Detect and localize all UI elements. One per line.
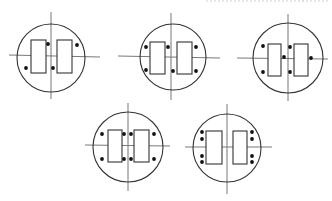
cut-off-text-fragment (302, 0, 330, 2)
pin-dot (282, 55, 286, 59)
pin-dot (144, 45, 148, 49)
pin-dot (24, 66, 28, 70)
pin-dot (100, 132, 104, 136)
diagram-3 (237, 14, 328, 101)
pin-dot (200, 160, 204, 164)
horizontal-axis-line (85, 145, 170, 146)
pin-dot (75, 43, 79, 47)
pin-dot (200, 154, 204, 158)
pin-dot (261, 70, 265, 74)
pin-dot (51, 66, 55, 70)
diagram-5 (185, 104, 272, 194)
horizontal-axis-line (9, 55, 100, 57)
horizontal-axis-line (118, 56, 220, 58)
pin-dot (100, 157, 104, 161)
pin-dot (122, 132, 126, 136)
pin-dot (200, 130, 204, 134)
pin-dot (250, 137, 254, 141)
pin-dot (194, 69, 198, 73)
pin-dot (200, 137, 204, 141)
pin-dot (288, 70, 292, 74)
component-rect-1 (206, 131, 222, 164)
pin-dot (129, 132, 133, 136)
component-rect-1 (108, 130, 122, 162)
component-rect-2 (134, 130, 149, 162)
component-rect-2 (294, 44, 308, 76)
pin-dot (288, 45, 292, 49)
pin-dot (152, 157, 156, 161)
pin-dot (166, 45, 170, 49)
component-rect-2 (233, 131, 247, 164)
pin-dot (144, 68, 148, 72)
component-rect-2 (57, 40, 72, 73)
pin-dot (309, 56, 313, 60)
pin-dot (250, 130, 254, 134)
diagram-canvas (0, 0, 332, 201)
pin-dot (250, 160, 254, 164)
component-rect-2 (177, 42, 192, 74)
component-rect-1 (268, 44, 281, 76)
diagram-1 (9, 12, 100, 99)
diagram-4 (85, 103, 170, 191)
pin-dot (194, 45, 198, 49)
diagram-2 (118, 13, 220, 100)
pin-dot (261, 44, 265, 48)
pin-dot (250, 154, 254, 158)
pin-dot (122, 157, 126, 161)
pin-dot (46, 42, 50, 46)
component-rect-1 (31, 40, 46, 73)
pin-dot (171, 69, 175, 73)
cut-off-text-fragment (206, 0, 306, 2)
placement-diagrams-figure (0, 0, 332, 201)
pin-dot (129, 157, 133, 161)
pin-dot (152, 132, 156, 136)
component-rect-1 (150, 42, 165, 74)
